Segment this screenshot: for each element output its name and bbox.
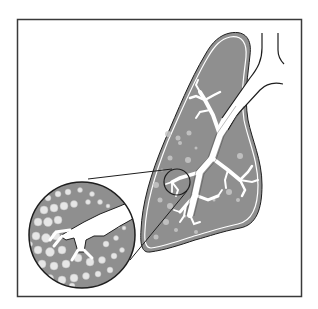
lung-illustration: [0, 0, 318, 309]
